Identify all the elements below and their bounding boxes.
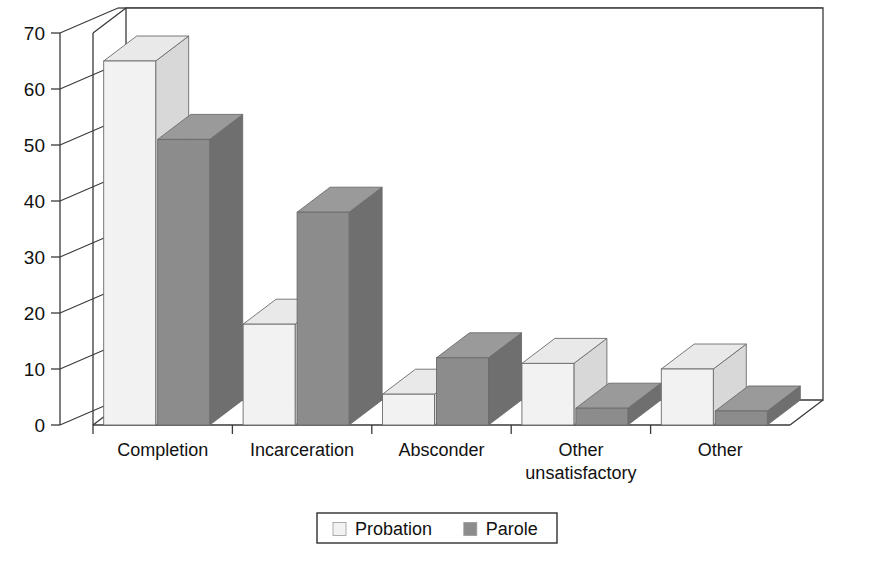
- x-axis-category-label: Completion: [117, 440, 208, 460]
- y-axis-tick-label: 60: [24, 79, 45, 100]
- bar-front-face: [383, 394, 435, 425]
- bar-front-face: [243, 324, 295, 425]
- bar-chart: 010203040506070 CompletionIncarcerationA…: [0, 0, 890, 566]
- x-axis-category-label: Other: [558, 440, 603, 460]
- y-axis-tick-label: 10: [24, 359, 45, 380]
- bar-front-face: [715, 411, 767, 425]
- bar-front-face: [297, 212, 349, 425]
- y-axis-tick-label: 20: [24, 303, 45, 324]
- bar-front-face: [576, 408, 628, 425]
- legend-swatch: [333, 523, 346, 536]
- chart-container: 010203040506070 CompletionIncarcerationA…: [0, 0, 890, 566]
- legend: ProbationParole: [317, 513, 557, 543]
- x-axis-category-label: Other: [698, 440, 743, 460]
- bar-front-face: [104, 61, 156, 425]
- y-axis-tick-label: 70: [24, 23, 45, 44]
- bar-front-face: [522, 363, 574, 425]
- legend-label: Parole: [486, 519, 538, 539]
- legend-label: Probation: [355, 519, 432, 539]
- y-axis-tick-label: 40: [24, 191, 45, 212]
- x-axis-category-label: Incarceration: [250, 440, 354, 460]
- bar-side-face: [210, 114, 243, 425]
- bar-front-face: [437, 358, 489, 425]
- bar-side-face: [349, 187, 382, 425]
- legend-swatch: [464, 523, 477, 536]
- y-axis-tick-label: 0: [34, 415, 45, 436]
- x-axis-category-label: unsatisfactory: [525, 463, 636, 483]
- bar-parole-0: [158, 114, 243, 425]
- x-axis-category-label: Absconder: [398, 440, 484, 460]
- bar-front-face: [158, 139, 210, 425]
- bar-front-face: [661, 369, 713, 425]
- y-axis-tick-label: 30: [24, 247, 45, 268]
- y-axis-tick-label: 50: [24, 135, 45, 156]
- bar-parole-1: [297, 187, 382, 425]
